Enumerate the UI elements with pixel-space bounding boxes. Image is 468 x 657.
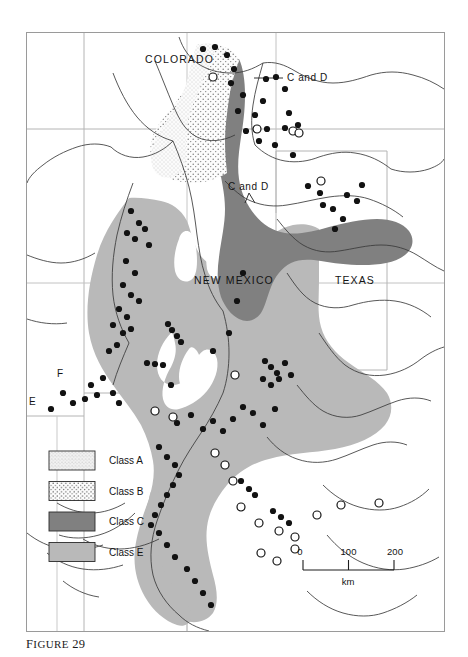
site-point-filled [164,454,170,460]
site-point-filled [124,230,130,236]
site-point-hollow [169,413,177,421]
figure-caption-number: 29 [72,637,85,651]
site-point-filled [100,375,106,381]
site-point-filled [172,554,178,560]
site-point-filled [231,66,237,72]
site-point-filled [136,298,142,304]
site-point-filled [88,382,94,388]
site-point-filled [165,321,171,327]
site-point-filled [260,376,266,382]
site-point-filled [132,270,138,276]
site-point-filled [188,412,194,418]
site-point-filled [295,122,301,128]
site-point-filled [82,396,88,402]
site-point-filled [238,478,244,484]
site-point-filled [132,236,138,242]
site-point-filled [192,578,198,584]
site-point-filled [240,270,246,276]
site-point-filled [110,322,116,328]
site-point-hollow [151,407,159,415]
site-point-filled [116,400,122,406]
site-point-hollow [317,177,325,185]
site-point-filled [272,406,278,412]
site-point-filled [106,348,112,354]
site-point-hollow [211,449,219,457]
site-point-filled [256,138,262,144]
site-point-filled [260,98,266,104]
site-point-filled [94,392,100,398]
site-point-filled [123,258,129,264]
site-point-filled [124,314,130,320]
site-point-filled [120,282,126,288]
scale-tick-0: 0 [297,546,302,557]
site-point-filled [268,364,274,370]
site-point-filled [152,512,158,518]
site-point-filled [60,390,66,396]
site-point-filled [136,220,142,226]
point-label-e: E [29,396,36,407]
site-point-filled [128,292,134,298]
site-point-filled [276,376,282,382]
site-point-filled [332,226,338,232]
site-point-filled [264,126,270,132]
site-point-filled [288,372,294,378]
site-point-filled [210,418,216,424]
label-colorado: COLORADO [145,53,214,65]
point-labels: E F [29,368,63,407]
site-point-filled [260,422,266,428]
site-point-filled [263,76,269,82]
site-point-filled [282,125,288,131]
site-point-filled [270,508,276,514]
site-point-filled [224,52,230,58]
scale-tick-200: 200 [387,546,403,557]
figure-caption-word: IGURE [33,638,69,650]
site-point-filled [268,382,274,388]
site-point-filled [148,522,154,528]
site-point-filled [200,426,206,432]
site-point-filled [110,390,116,396]
site-point-hollow [291,533,299,541]
site-point-filled [120,330,126,336]
legend-label-class-a: Class A [109,455,143,466]
site-point-hollow [273,557,281,565]
site-point-filled [212,44,218,50]
figure-root: COLORADO NEW MEXICO TEXAS C and D C and … [0,0,468,657]
site-point-filled [354,198,360,204]
site-point-filled [144,360,150,366]
legend-label-class-c: Class C [109,516,144,527]
site-point-filled [178,339,184,345]
annotation-c-and-d-north: C and D [287,72,328,83]
site-point-filled [286,520,292,526]
site-point-filled [252,492,258,498]
site-point-filled [317,190,323,196]
site-point-filled [146,242,152,248]
site-point-filled [170,482,176,488]
site-point-filled [169,327,175,333]
site-point-filled [228,80,234,86]
scale-unit-label: km [342,576,355,587]
site-point-filled [160,362,166,368]
site-point-filled [200,590,206,596]
site-point-filled [114,342,120,348]
site-point-filled [250,410,256,416]
site-point-filled [290,152,296,158]
site-point-filled [128,326,134,332]
site-point-hollow [337,501,345,509]
site-point-hollow [313,511,321,519]
site-point-filled [272,142,278,148]
site-point-hollow [209,73,217,81]
site-point-filled [286,110,292,116]
site-point-filled [330,206,336,212]
site-point-hollow [253,125,261,133]
figure-caption: FIGURE 29 [26,637,85,652]
site-point-hollow [229,477,237,485]
legend-swatch-class-b [49,482,95,501]
site-point-filled [152,361,158,367]
site-point-filled [282,86,288,92]
site-point-hollow [237,503,245,511]
site-point-hollow [275,527,283,535]
site-point-filled [176,472,182,478]
legend-swatch-class-c [49,512,95,531]
site-point-hollow [221,461,229,469]
site-point-filled [142,226,148,232]
